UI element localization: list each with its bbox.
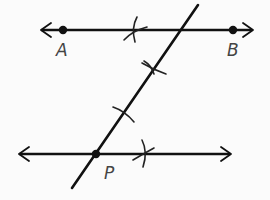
line-ab — [41, 23, 253, 37]
point-a — [59, 26, 67, 34]
point-b — [229, 26, 237, 34]
parallel-line-construction-diagram: A B P — [0, 0, 270, 200]
label-a: A — [55, 40, 68, 60]
line-through-p — [19, 147, 231, 161]
label-b: B — [227, 40, 239, 60]
point-p — [92, 150, 100, 158]
label-p: P — [104, 163, 115, 183]
